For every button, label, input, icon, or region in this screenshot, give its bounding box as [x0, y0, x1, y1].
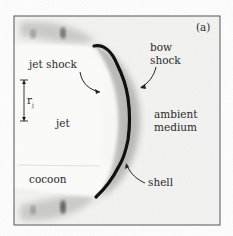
- bow-shock-label-line2: shock: [150, 55, 181, 66]
- jet-shock-label: jet shock: [29, 59, 77, 70]
- shell-label: shell: [148, 177, 173, 188]
- jet-label: jet: [56, 118, 70, 129]
- bow-shock-label-line1: bow: [150, 42, 172, 53]
- jet-radius-label: rj: [27, 95, 34, 110]
- cocoon-label: cocoon: [29, 174, 67, 185]
- ambient-medium-label-line2: medium: [154, 122, 197, 133]
- jet-radius-subscript: j: [32, 101, 34, 108]
- ambient-medium-label-line1: ambient: [154, 109, 198, 120]
- jet-bow-shock-figure: (a) bow shock jet shock rj jet ambient m…: [0, 0, 233, 236]
- panel-label: (a): [196, 22, 210, 33]
- figure-graphic: [0, 0, 233, 236]
